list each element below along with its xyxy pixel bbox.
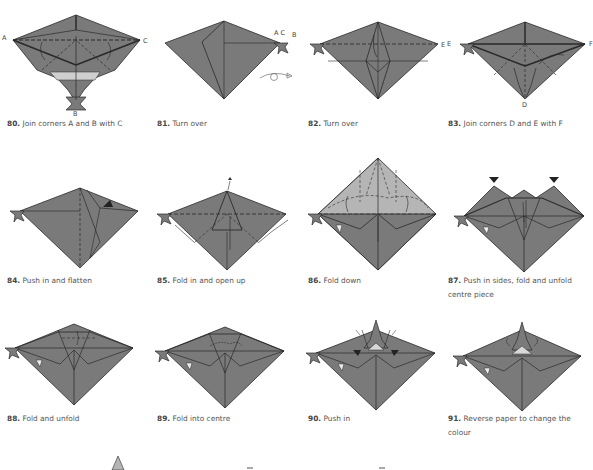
step-number: 86. — [308, 276, 321, 285]
step-number: 82. — [308, 119, 321, 128]
step-number: 88. — [7, 414, 20, 423]
step-text: Reverse paper to change the colour — [448, 414, 571, 437]
partial-diagram-next-row — [110, 455, 140, 470]
fold-diagram-83 — [444, 0, 593, 120]
fold-diagram-85 — [150, 150, 298, 275]
step-number: 84. — [7, 276, 20, 285]
step-text: Push in sides, fold and unfold centre pi… — [448, 276, 572, 299]
fold-diagram-90 — [298, 300, 446, 415]
corner-label-ac: A C — [274, 29, 285, 37]
fold-diagram-80 — [0, 0, 148, 120]
corner-label-a: A — [2, 34, 6, 42]
step-text: Fold down — [323, 276, 361, 285]
step-text: Fold and unfold — [22, 414, 79, 423]
partial-diagram-mark — [377, 460, 387, 470]
step-text: Push in — [323, 414, 350, 423]
step-number: 81. — [157, 119, 170, 128]
step-number: 89. — [157, 414, 170, 423]
step-text: Fold into centre — [172, 414, 230, 423]
fold-diagram-84 — [0, 150, 148, 275]
corner-label-c: C — [143, 37, 148, 45]
corner-label-e: E — [447, 40, 451, 48]
step-number: 87. — [448, 276, 461, 285]
step-text: Fold in and open up — [172, 276, 245, 285]
step-caption: 81. Turn over — [157, 117, 297, 131]
step-number: 90. — [308, 414, 321, 423]
step-text: Join corners A and B with C — [22, 119, 122, 128]
corner-label-f: F — [589, 40, 593, 48]
corner-label-d: D — [522, 101, 527, 109]
step-number: 80. — [7, 119, 20, 128]
fold-diagram-87 — [444, 150, 593, 275]
step-text: Turn over — [323, 119, 358, 128]
step-caption: 82. Turn over — [308, 117, 448, 131]
fold-diagram-82 — [298, 0, 446, 120]
fold-diagram-91 — [444, 300, 593, 415]
step-number: 83. — [448, 119, 461, 128]
corner-label-b: B — [292, 31, 296, 39]
fold-diagram-88 — [0, 300, 148, 415]
step-caption: 87. Push in sides, fold and unfold centr… — [448, 274, 593, 302]
step-caption: 83. Join corners D and E with F — [448, 117, 593, 131]
fold-diagram-86 — [298, 150, 446, 275]
step-text: Turn over — [172, 119, 207, 128]
step-caption: 80. Join corners A and B with C — [7, 117, 147, 131]
fold-diagram-81 — [150, 0, 298, 120]
step-caption: 88. Fold and unfold — [7, 412, 147, 426]
step-caption: 86. Fold down — [308, 274, 448, 288]
step-caption: 84. Push in and flatten — [7, 274, 147, 288]
fold-diagram-89 — [150, 300, 298, 415]
step-caption: 89. Fold into centre — [157, 412, 297, 426]
step-caption: 91. Reverse paper to change the colour — [448, 412, 593, 440]
step-number: 91. — [448, 414, 461, 423]
step-text: Join corners D and E with F — [463, 119, 562, 128]
step-number: 85. — [157, 276, 170, 285]
step-text: Push in and flatten — [22, 276, 91, 285]
step-caption: 85. Fold in and open up — [157, 274, 297, 288]
step-caption: 90. Push in — [308, 412, 448, 426]
partial-diagram-mark — [245, 460, 255, 470]
